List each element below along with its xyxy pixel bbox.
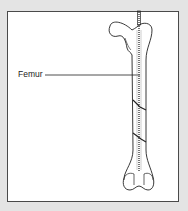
femur-illustration	[0, 0, 188, 211]
condyle-right	[144, 173, 153, 185]
condyle-left	[124, 173, 134, 185]
femur-bone-outline	[109, 22, 154, 190]
